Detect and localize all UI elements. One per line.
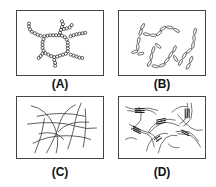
bead-network-illustration (17, 11, 103, 75)
panel-d (118, 96, 206, 159)
junction-zone-illustration (119, 97, 205, 158)
panel-c-label: (C) (16, 165, 104, 179)
panel-a-label: (A) (16, 77, 104, 91)
panel-b-label: (B) (118, 77, 206, 91)
panel-b (118, 10, 206, 76)
random-fiber-illustration (17, 97, 103, 158)
panel-a (16, 10, 104, 76)
elliptical-chain-illustration (119, 11, 205, 75)
panel-d-label: (D) (118, 165, 206, 179)
panel-c (16, 96, 104, 159)
